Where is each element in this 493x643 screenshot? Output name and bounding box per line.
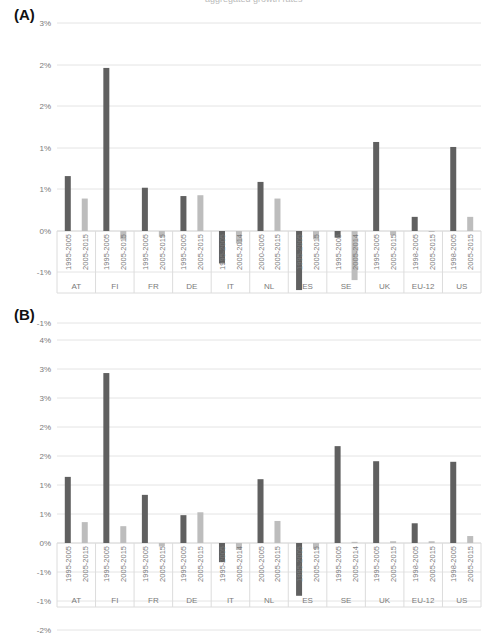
period-label: 1995-2005 [334,546,343,582]
period-label: 2000-2005 [257,234,266,270]
category-label-nl: NL [264,282,275,291]
period-label: 1995-2005 [218,234,227,270]
period-label: 2005-2015 [273,234,282,270]
period-label: 2005-2015 [81,546,90,582]
period-label: 1995-2005 [372,546,381,582]
category-label-fi: FI [111,282,118,291]
category-label-se: SE [341,596,352,605]
y-tick-label: 3% [39,19,51,28]
period-label: 2005-2015 [312,546,321,582]
y-tick-label: -2% [37,626,51,635]
bar-eu-12-1998-2005 [412,523,418,543]
bar-se-1995-2005 [335,446,341,543]
y-tick-label: 0% [39,227,51,236]
category-label-fi: FI [111,596,118,605]
period-label: 1998-2005 [449,234,458,270]
period-label: 2005-2015 [389,546,398,582]
bar-uk-1995-2005 [373,461,379,543]
period-label: 2005-2015 [119,546,128,582]
bar-us-1998-2005 [450,147,456,231]
category-label-it: IT [227,596,234,605]
y-tick-label: -1% [37,319,51,328]
bar-at-1995-2005 [65,176,71,231]
bar-de-2005-2015 [197,195,203,231]
period-label: 2005-2015 [158,234,167,270]
period-label: 2005-2014 [235,546,244,582]
bar-nl-2000-2005 [258,479,264,543]
bar-nl-2005-2015 [274,521,280,543]
period-label: 1995-2005 [179,234,188,270]
period-label: 1995-2005 [372,234,381,270]
bar-at-2005-2015 [82,199,88,231]
category-label-es: ES [302,282,313,291]
category-label-eu-12: EU-12 [412,282,435,291]
category-label-at: AT [71,596,81,605]
period-label: 1998-2005 [449,546,458,582]
period-label: 1995-2005 [334,234,343,270]
category-label-it: IT [227,282,234,291]
bar-eu-12-2005-2015 [429,541,435,543]
bar-us-2005-2015 [467,536,473,543]
bar-de-2005-2015 [197,512,203,543]
period-label: 2005-2015 [158,546,167,582]
y-tick-label: 3% [39,394,51,403]
y-tick-label: 1% [39,185,51,194]
category-label-us: US [456,282,467,291]
period-label: 2005-2015 [466,546,475,582]
period-label: 2000-2005 [257,546,266,582]
category-label-uk: UK [379,596,391,605]
y-tick-label: 3% [39,365,51,374]
category-label-fr: FR [148,596,159,605]
period-label: 1995-2005 [295,546,304,582]
bar-us-1998-2005 [450,462,456,543]
period-label: 2005-2014 [235,234,244,270]
bar-fi-2005-2015 [120,526,126,543]
period-label: 1995-2005 [102,546,111,582]
period-label: 2005-2014 [351,234,360,270]
bar-at-1995-2005 [65,477,71,543]
panel-b-chart: -1%4%3%3%2%2%1%1%0%-1%-1%-2%1995-2005200… [37,319,481,635]
period-label: 2005-2015 [119,234,128,270]
period-label: 1995-2005 [64,234,73,270]
y-tick-label: -1% [37,597,51,606]
category-label-se: SE [341,282,352,291]
period-label: 1998-2005 [411,234,420,270]
y-tick-label: 0% [39,539,51,548]
bar-eu-12-1998-2005 [412,217,418,231]
period-label: 1995-2005 [295,234,304,270]
category-label-eu-12: EU-12 [412,596,435,605]
bar-nl-2000-2005 [258,182,264,231]
bar-eu-12-2005-2015 [429,231,435,232]
y-tick-label: -1% [37,568,51,577]
bar-uk-1995-2005 [373,142,379,231]
y-tick-label: 2% [39,61,51,70]
period-label: 2005-2015 [81,234,90,270]
period-label: 1995-2005 [179,546,188,582]
period-label: 2005-2015 [428,234,437,270]
category-label-at: AT [71,282,81,291]
y-tick-label: 4% [39,336,51,345]
period-label: 2005-2015 [389,234,398,270]
bar-fr-1995-2005 [142,495,148,543]
category-label-de: DE [186,282,197,291]
bar-us-2005-2015 [467,217,473,231]
period-label: 2005-2015 [428,546,437,582]
period-label: 1995-2005 [102,234,111,270]
bar-nl-2005-2015 [274,199,280,231]
y-tick-label: 1% [39,481,51,490]
period-label: 1995-2005 [64,546,73,582]
y-tick-label: 2% [39,102,51,111]
chart-canvas: 3%2%2%1%1%0%-1%1995-20052005-2015AT1995-… [0,0,493,643]
bar-se-2005-2014 [352,542,358,543]
category-label-de: DE [186,596,197,605]
period-label: 1995-2005 [141,546,150,582]
period-label: 1998-2005 [411,546,420,582]
y-tick-label: 2% [39,423,51,432]
period-label: 2005-2015 [466,234,475,270]
period-label: 2005-2014 [351,546,360,582]
category-label-fr: FR [148,282,159,291]
period-label: 1995-2005 [141,234,150,270]
period-label: 1995-2005 [218,546,227,582]
bar-fi-1995-2005 [103,373,109,543]
period-label: 2005-2015 [273,546,282,582]
